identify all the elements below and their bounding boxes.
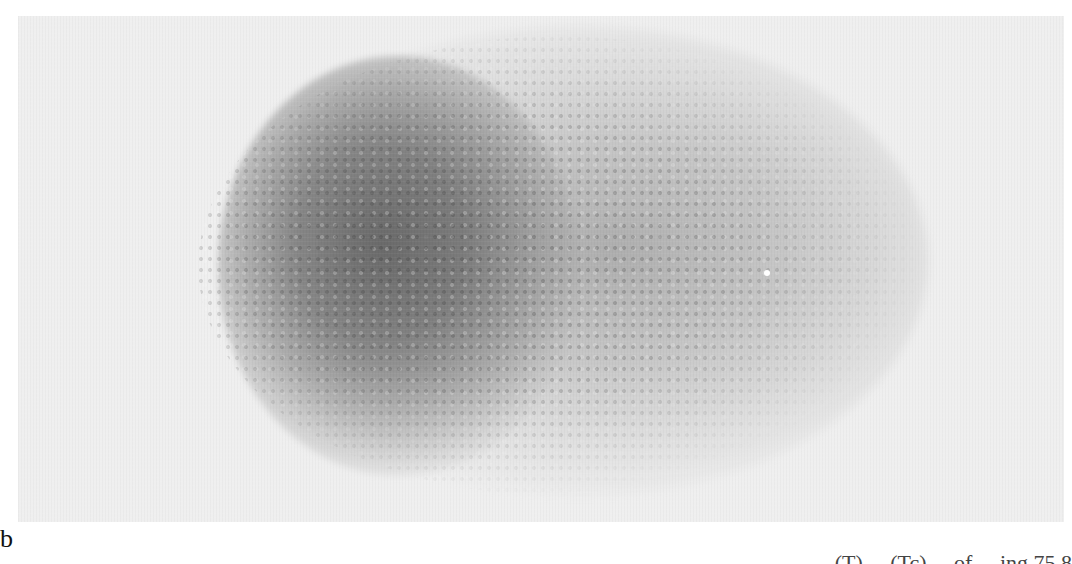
film-grain (18, 16, 1064, 522)
panel-label: b (0, 526, 13, 552)
scintigram-image (18, 16, 1064, 522)
figure-caption-clipped: (T) ... (Tc) ... of ... ing 75.8 (60, 548, 1072, 564)
bright-spot (764, 270, 770, 276)
